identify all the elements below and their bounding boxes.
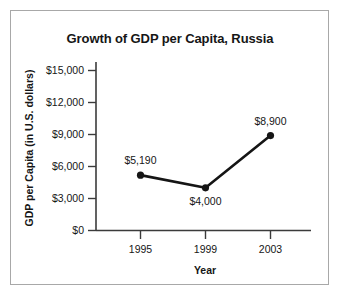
y-tick-label: $9,000: [52, 128, 84, 140]
x-tick-label: 1995: [129, 243, 153, 255]
data-point-labels: $5,190 $4,000 $8,900: [124, 115, 286, 207]
y-tick-label: $0: [72, 224, 84, 236]
line-chart: Growth of GDP per Capita, Russia GDP per…: [0, 0, 341, 296]
y-axis-ticks: $15,000 $12,000 $9,000 $6,000 $3,000 $0: [46, 64, 96, 236]
series-markers: [137, 132, 274, 191]
x-axis-ticks: 1995 1999 2003: [129, 231, 283, 255]
y-tick-label: $6,000: [52, 160, 84, 172]
y-axis-title: GDP per Capita (in U.S. dollars): [23, 70, 35, 227]
data-point-marker[interactable]: [267, 132, 274, 139]
y-tick-label: $12,000: [46, 96, 84, 108]
x-tick-label: 1999: [194, 243, 218, 255]
data-point-marker[interactable]: [137, 172, 144, 179]
y-tick-label: $15,000: [46, 64, 84, 76]
chart-figure: Growth of GDP per Capita, Russia GDP per…: [0, 0, 341, 296]
x-tick-label: 2003: [259, 243, 283, 255]
chart-title: Growth of GDP per Capita, Russia: [67, 31, 275, 46]
data-point-label: $4,000: [189, 195, 221, 207]
y-tick-label: $3,000: [52, 192, 84, 204]
data-point-label: $5,190: [124, 154, 156, 166]
series-line: [141, 136, 271, 188]
data-point-label: $8,900: [254, 115, 286, 127]
data-point-marker[interactable]: [202, 184, 209, 191]
x-axis-title: Year: [194, 264, 216, 276]
